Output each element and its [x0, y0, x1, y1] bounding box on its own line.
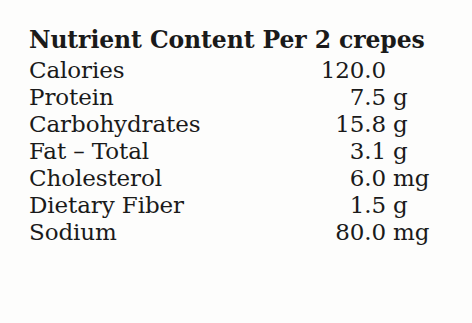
nutrient-unit: mg [393, 219, 429, 246]
nutrient-row: Fat – Total 3.1 g [0, 138, 472, 165]
nutrient-label: Carbohydrates [29, 111, 200, 138]
nutrient-unit: mg [393, 165, 429, 192]
nutrient-row: Cholesterol 6.0 mg [0, 165, 472, 192]
nutrient-label: Cholesterol [29, 165, 162, 192]
nutrient-unit: g [393, 138, 408, 165]
nutrient-label: Calories [29, 57, 124, 84]
nutrient-label: Dietary Fiber [29, 192, 184, 219]
nutrient-label: Sodium [29, 219, 117, 246]
nutrient-row: Sodium 80.0 mg [0, 219, 472, 246]
nutrient-label: Protein [29, 84, 114, 111]
nutrient-value: 80.0 [210, 219, 386, 246]
nutrient-value: 15.8 [210, 111, 386, 138]
nutrient-label: Fat – Total [29, 138, 149, 165]
nutrient-row: Dietary Fiber 1.5 g [0, 192, 472, 219]
nutrient-list: Calories 120.0 Protein 7.5 g Carbohydrat… [0, 57, 472, 246]
nutrient-value: 1.5 [210, 192, 386, 219]
panel-title: Nutrient Content Per 2 crepes [29, 27, 425, 54]
nutrient-row: Carbohydrates 15.8 g [0, 111, 472, 138]
nutrition-facts-panel: Nutrient Content Per 2 crepes Calories 1… [0, 0, 472, 323]
nutrient-unit: g [393, 111, 408, 138]
nutrient-value: 120.0 [210, 57, 386, 84]
nutrient-row: Protein 7.5 g [0, 84, 472, 111]
nutrient-value: 3.1 [210, 138, 386, 165]
nutrient-row: Calories 120.0 [0, 57, 472, 84]
nutrient-value: 7.5 [210, 84, 386, 111]
nutrient-unit: g [393, 84, 408, 111]
nutrient-unit: g [393, 192, 408, 219]
nutrient-value: 6.0 [210, 165, 386, 192]
